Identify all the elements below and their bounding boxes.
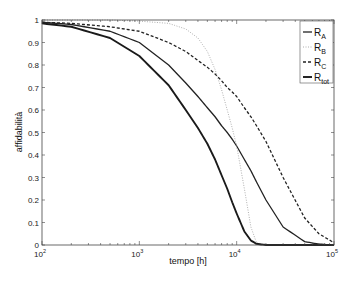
y-tick-label: 0.7 xyxy=(28,84,40,93)
y-tick-label: 0.6 xyxy=(28,106,40,115)
y-tick-label: 0.1 xyxy=(28,219,40,228)
y-tick-label: 0.9 xyxy=(28,39,40,48)
y-axis-label: affidabilità xyxy=(14,112,24,152)
y-tick-label: 0 xyxy=(35,241,40,250)
y-tick-label: 0.8 xyxy=(28,61,40,70)
y-tick-label: 1 xyxy=(35,16,40,25)
legend: RARBRCRtot xyxy=(300,21,333,85)
reliability-chart: 00.10.20.30.40.50.60.70.80.9110210310410… xyxy=(0,0,354,281)
y-tick-label: 0.4 xyxy=(28,151,40,160)
y-tick-label: 0.2 xyxy=(28,196,40,205)
x-axis-label: tempo [h] xyxy=(169,256,207,266)
y-tick-label: 0.5 xyxy=(28,129,40,138)
y-tick-label: 0.3 xyxy=(28,174,40,183)
